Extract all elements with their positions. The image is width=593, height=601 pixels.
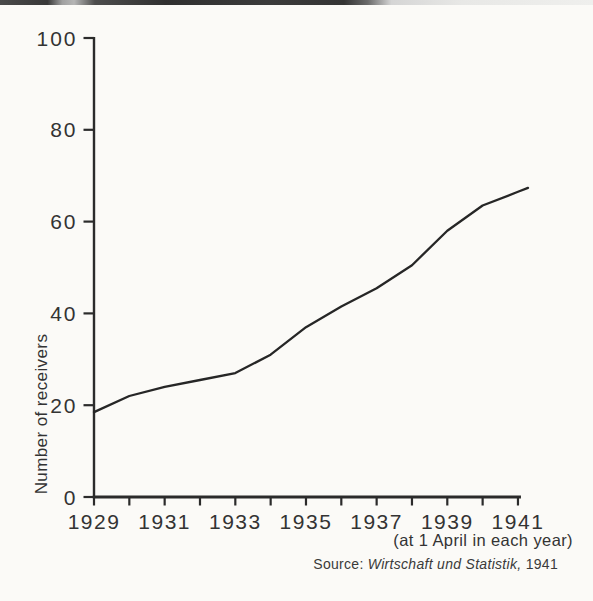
y-tick-label: 100 (36, 27, 77, 50)
source-note: Source: Wirtschaft und Statistik, 1941 (313, 556, 558, 572)
source-prefix: Source: (313, 556, 368, 572)
x-tick-label: 1933 (209, 510, 262, 533)
data-line (94, 188, 528, 412)
x-tick-label: 1939 (421, 510, 474, 533)
y-tick-label: 0 (64, 486, 78, 509)
source-year: 1941 (521, 556, 558, 572)
source-journal-title: Wirtschaft und Statistik, (368, 556, 522, 572)
y-tick-label: 40 (50, 302, 77, 325)
y-axis-title: Number of receivers (32, 334, 52, 495)
y-tick-label: 60 (50, 210, 77, 233)
x-axis-note: (at 1 April in each year) (393, 531, 573, 550)
y-tick-label: 80 (50, 118, 77, 141)
x-tick-label: 1941 (492, 510, 545, 533)
x-tick-label: 1929 (68, 510, 121, 533)
x-tick-label: 1931 (138, 510, 191, 533)
scanned-chart-page: 0204060801001929193119331935193719391941… (0, 0, 593, 601)
x-tick-label: 1935 (280, 510, 333, 533)
x-tick-label: 1937 (350, 510, 403, 533)
y-tick-label: 20 (50, 394, 77, 417)
receivers-line-chart: 0204060801001929193119331935193719391941 (0, 0, 593, 601)
